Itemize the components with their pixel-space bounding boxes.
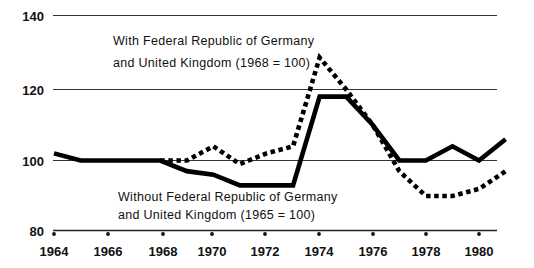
xtick-dot-1966 [106, 232, 110, 236]
annotation-without-frg-uk: Without Federal Republic of Germany and … [118, 190, 338, 222]
xtick-dot-1974 [317, 232, 321, 236]
xtick-label-1978: 1978 [412, 244, 441, 259]
annotation-with-frg-uk: With Federal Republic of Germany and Uni… [113, 34, 315, 70]
xtick-label-1976: 1976 [359, 244, 388, 259]
x-axis-labels: 1964 1966 1968 1970 1972 1974 1976 1978 … [40, 244, 494, 259]
xtick-label-1966: 1966 [94, 244, 123, 259]
series-line-without-frg-uk [54, 97, 506, 186]
xtick-dot-1968 [161, 232, 165, 236]
xtick-dot-1976 [371, 232, 375, 236]
annotation-without-line1: Without Federal Republic of Germany [118, 190, 338, 204]
xtick-dot-1970 [210, 232, 214, 236]
xtick-dot-1978 [424, 232, 428, 236]
xtick-dot-1972 [263, 232, 267, 236]
line-chart: 140 120 100 80 1964 1966 1968 1970 1972 … [0, 0, 534, 268]
ytick-label-140: 140 [22, 9, 44, 24]
y-axis-labels: 140 120 100 80 [22, 9, 44, 239]
x-axis-tick-dots [52, 232, 481, 236]
xtick-label-1970: 1970 [198, 244, 227, 259]
chart-container: 140 120 100 80 1964 1966 1968 1970 1972 … [0, 0, 534, 268]
annotation-with-line1: With Federal Republic of Germany [113, 34, 315, 48]
ytick-label-120: 120 [22, 83, 44, 98]
xtick-dot-1980 [477, 232, 481, 236]
annotation-with-line2: and United Kingdom (1968 = 100) [113, 56, 310, 70]
xtick-label-1968: 1968 [149, 244, 178, 259]
xtick-label-1964: 1964 [40, 244, 70, 259]
xtick-label-1980: 1980 [465, 244, 494, 259]
xtick-label-1974: 1974 [305, 244, 335, 259]
ytick-label-100: 100 [22, 154, 44, 169]
ytick-label-80: 80 [30, 224, 44, 239]
xtick-label-1972: 1972 [251, 244, 280, 259]
annotation-without-line2: and United Kingdom (1965 = 100) [118, 208, 315, 222]
xtick-dot-1964 [52, 232, 56, 236]
